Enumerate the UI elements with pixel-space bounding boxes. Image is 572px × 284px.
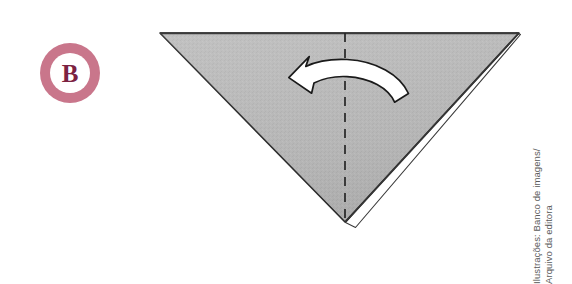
figure-root: B — [0, 0, 572, 284]
fold-illustration — [0, 0, 572, 284]
